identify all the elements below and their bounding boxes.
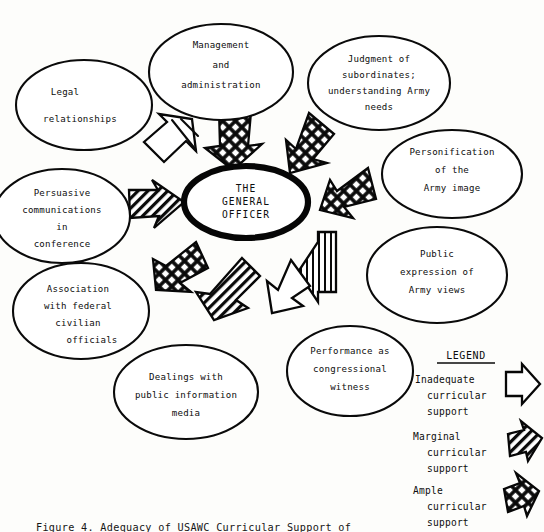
- legend-arrow-inadequate: [506, 364, 540, 404]
- node-public-expression-line-1: Public: [420, 249, 454, 259]
- node-persuasive-line-4: conference: [34, 239, 91, 249]
- legend-title: LEGEND: [446, 350, 486, 361]
- node-management-line-3: administration: [181, 80, 260, 90]
- node-federal-civilian-line-3: civilian: [55, 318, 100, 328]
- node-congressional-line-1: Performance as: [310, 346, 389, 356]
- legend-ample-line-2: curricular: [427, 501, 487, 512]
- node-congressional[interactable]: Performance as congressional witness: [287, 326, 413, 416]
- node-management[interactable]: Management and administration: [149, 24, 293, 120]
- node-congressional-line-2: congressional: [313, 364, 387, 374]
- diagram-canvas: THE GENERAL OFFICER Management and admin…: [0, 0, 544, 532]
- arrow-judgment: [286, 113, 334, 173]
- legend: LEGEND Inadequate curricular support Mar…: [413, 350, 542, 528]
- node-judgment-line-3: understanding Army: [328, 86, 430, 96]
- node-personification[interactable]: Personification of the Army image: [382, 130, 522, 218]
- node-federal-civilian[interactable]: Association with federal civilian offici…: [13, 263, 149, 359]
- node-public-information[interactable]: Dealings with public information media: [114, 345, 258, 439]
- node-legal[interactable]: Legal relationships: [16, 60, 152, 150]
- node-judgment-line-4: needs: [365, 102, 393, 112]
- legend-inadequate-line-3: support: [427, 406, 469, 417]
- node-federal-civilian-line-4: officials: [66, 335, 117, 345]
- legend-marginal-line-3: support: [427, 463, 469, 474]
- figure-caption: Figure 4. Adequacy of USAWC Curricular S…: [36, 522, 351, 532]
- node-legal-line-2: relationships: [43, 114, 117, 124]
- node-persuasive-line-1: Persuasive: [34, 188, 91, 198]
- legend-item-marginal[interactable]: Marginal curricular support: [413, 421, 542, 474]
- node-persuasive-line-3: in: [56, 222, 67, 232]
- node-judgment-line-1: Judgment of: [348, 54, 410, 64]
- node-management-line-2: and: [212, 60, 229, 70]
- node-judgment[interactable]: Judgment of subordinates; understanding …: [308, 36, 450, 130]
- node-public-information-line-2: public information: [135, 390, 237, 400]
- legend-arrow-marginal: [508, 421, 542, 461]
- node-personification-line-3: Army image: [424, 183, 481, 193]
- arrow-persuasive: [129, 180, 184, 228]
- node-public-information-line-3: media: [172, 408, 200, 418]
- figure-root: THE GENERAL OFFICER Management and admin…: [0, 0, 544, 532]
- node-persuasive[interactable]: Persuasive communications in conference: [0, 169, 130, 263]
- node-federal-civilian-line-1: Association: [47, 284, 109, 294]
- arrow-legal: [144, 114, 196, 162]
- node-persuasive-line-2: communications: [22, 205, 101, 215]
- node-public-expression[interactable]: Public expression of Army views: [367, 227, 507, 323]
- node-judgment-line-2: subordinates;: [342, 70, 416, 80]
- legend-marginal-line-1: Marginal: [413, 431, 461, 442]
- arrow-personification: [320, 168, 376, 218]
- center-node: THE GENERAL OFFICER: [184, 166, 308, 238]
- legend-arrow-ample: [504, 473, 539, 516]
- legend-ample-line-1: Ample: [413, 485, 443, 496]
- center-line-3: OFFICER: [222, 209, 270, 220]
- arrow-federal-civilian: [153, 242, 208, 292]
- node-public-information-line-1: Dealings with: [149, 372, 223, 382]
- node-legal-line-1: Legal: [51, 87, 79, 97]
- node-personification-line-1: Personification: [409, 147, 494, 157]
- legend-marginal-line-2: curricular: [427, 447, 487, 458]
- node-public-expression-line-3: Army views: [409, 285, 466, 295]
- node-federal-civilian-line-2: with federal: [44, 301, 112, 311]
- legend-item-ample[interactable]: Ample curricular support: [413, 473, 539, 528]
- node-personification-line-2: of the: [435, 165, 469, 175]
- figure-caption-text: Figure 4. Adequacy of USAWC Curricular S…: [36, 522, 351, 532]
- node-management-line-1: Management: [193, 40, 250, 50]
- node-congressional-line-3: witness: [330, 382, 370, 392]
- legend-item-inadequate[interactable]: Inadequate curricular support: [415, 364, 540, 417]
- legend-inadequate-line-1: Inadequate: [415, 374, 475, 385]
- legend-inadequate-line-2: curricular: [427, 390, 487, 401]
- legend-ample-line-3: support: [427, 517, 469, 528]
- center-line-1: THE: [236, 183, 257, 194]
- node-public-expression-line-2: expression of: [400, 267, 474, 277]
- center-line-2: GENERAL: [222, 196, 270, 207]
